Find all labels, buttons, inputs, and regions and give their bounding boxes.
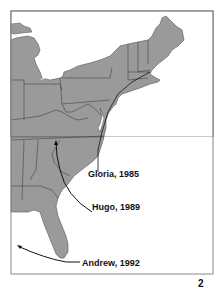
label-hugo: Hugo, 1989 xyxy=(92,202,140,212)
panel-number: 2 xyxy=(198,278,204,289)
label-andrew: Andrew, 1992 xyxy=(82,258,140,268)
hurricane-map: Gloria, 1985 Hugo, 1989 Andrew, 1992 2 xyxy=(0,0,223,302)
label-gloria: Gloria, 1985 xyxy=(88,169,139,179)
